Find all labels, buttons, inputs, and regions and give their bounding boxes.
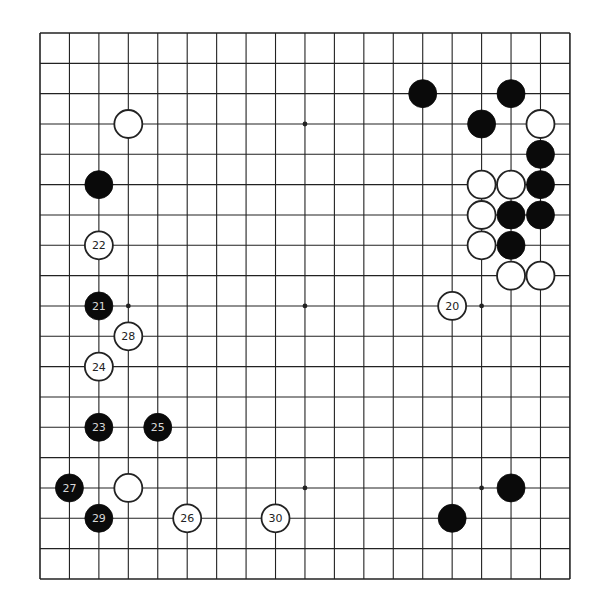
white-stone[interactable]: 28 (114, 322, 142, 350)
star-point (479, 304, 484, 309)
white-stone-disc (497, 171, 525, 199)
black-stone-disc (497, 474, 525, 502)
move-number-label: 21 (92, 300, 106, 313)
move-number-label: 27 (62, 482, 76, 495)
black-stone[interactable]: 27 (55, 474, 83, 502)
move-number-label: 24 (92, 361, 106, 374)
white-stone-disc (468, 171, 496, 199)
white-stone[interactable] (114, 474, 142, 502)
white-stone-disc (526, 110, 554, 138)
move-number-label: 29 (92, 512, 106, 525)
black-stone[interactable] (409, 80, 437, 108)
star-point (303, 122, 308, 127)
black-stone[interactable] (497, 474, 525, 502)
white-stone[interactable]: 24 (85, 353, 113, 381)
move-number-label: 30 (269, 512, 283, 525)
black-stone[interactable] (468, 110, 496, 138)
white-stone[interactable] (526, 262, 554, 290)
black-stone[interactable] (526, 171, 554, 199)
white-stone[interactable] (468, 171, 496, 199)
black-stone-disc (438, 504, 466, 532)
white-stone-disc (526, 262, 554, 290)
black-stone-disc (497, 80, 525, 108)
white-stone[interactable] (526, 110, 554, 138)
black-stone[interactable]: 23 (85, 413, 113, 441)
black-stone-disc (526, 140, 554, 168)
black-stone-disc (409, 80, 437, 108)
white-stone[interactable]: 20 (438, 292, 466, 320)
black-stone[interactable] (526, 140, 554, 168)
move-number-label: 28 (121, 330, 135, 343)
black-stone-disc (526, 201, 554, 229)
white-stone[interactable] (497, 262, 525, 290)
white-stone[interactable] (468, 201, 496, 229)
black-stone[interactable]: 29 (85, 504, 113, 532)
black-stone[interactable] (497, 80, 525, 108)
black-stone[interactable] (438, 504, 466, 532)
white-stone-disc (114, 110, 142, 138)
star-point (126, 304, 131, 309)
white-stone[interactable]: 30 (262, 504, 290, 532)
black-stone[interactable]: 25 (144, 413, 172, 441)
black-stone-disc (497, 231, 525, 259)
star-point (303, 486, 308, 491)
white-stone-disc (497, 262, 525, 290)
black-stone-disc (497, 201, 525, 229)
black-stone-disc (85, 171, 113, 199)
black-stone[interactable] (497, 201, 525, 229)
black-stone[interactable]: 21 (85, 292, 113, 320)
white-stone[interactable] (114, 110, 142, 138)
white-stone[interactable]: 26 (173, 504, 201, 532)
move-number-label: 23 (92, 421, 106, 434)
black-stone-disc (526, 171, 554, 199)
move-number-label: 26 (180, 512, 194, 525)
go-board[interactable]: 2021222324252627282930 (0, 0, 601, 613)
star-point (303, 304, 308, 309)
white-stone-disc (468, 201, 496, 229)
move-number-label: 20 (445, 300, 459, 313)
move-number-label: 25 (151, 421, 165, 434)
move-number-label: 22 (92, 239, 106, 252)
black-stone[interactable] (497, 231, 525, 259)
white-stone-disc (114, 474, 142, 502)
white-stone[interactable]: 22 (85, 231, 113, 259)
white-stone-disc (468, 231, 496, 259)
white-stone[interactable] (497, 171, 525, 199)
black-stone[interactable] (526, 201, 554, 229)
star-point (479, 486, 484, 491)
black-stone-disc (468, 110, 496, 138)
white-stone[interactable] (468, 231, 496, 259)
black-stone[interactable] (85, 171, 113, 199)
